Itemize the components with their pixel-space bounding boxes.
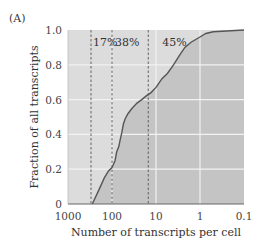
x-tick-label: 0.1 [236,210,253,222]
percent-annotation: 45% [162,36,186,49]
y-tick-label: 0.8 [45,59,62,71]
percent-annotation: 17% [93,36,117,49]
x-tick-label: 1 [197,210,204,222]
y-tick-label: 0 [55,198,62,210]
x-tick-label: 10 [149,210,162,222]
y-tick-label: 1.0 [45,24,62,36]
x-axis-title: Number of transcripts per cell [71,226,242,239]
cumulative-chart: 10001001010.100.20.40.60.81.017%38%45%Nu… [0,0,264,249]
y-tick-label: 0.2 [45,163,62,175]
y-tick-label: 0.4 [45,128,62,140]
percent-annotation: 38% [115,36,139,49]
x-tick-label: 100 [102,210,122,222]
x-tick-label: 1000 [55,210,82,222]
y-axis-title: Fraction of all transcripts [28,45,41,188]
y-tick-label: 0.6 [45,94,62,106]
